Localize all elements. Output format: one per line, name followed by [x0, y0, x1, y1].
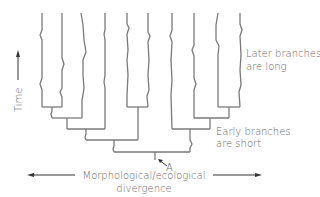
time-arrow-head-icon: [16, 50, 20, 57]
divergence-arrow-left-icon: [27, 173, 34, 177]
later-branches-line2: are long: [246, 61, 287, 72]
divergence-label-line1: Morphological/ecological: [83, 170, 206, 181]
branch-tip-8: [192, 13, 196, 118]
branch-tip-10: [239, 13, 242, 107]
branch-tip-2: [60, 13, 64, 107]
early-branches-line2: are short: [216, 138, 261, 149]
stem-1234: [85, 129, 86, 140]
branch-tip-9: [216, 13, 219, 107]
branch-tip-3: [81, 13, 86, 118]
later-branches-line1: Later branches: [246, 48, 320, 59]
branch-tip-1: [40, 13, 42, 107]
divergence-arrow-right-icon: [255, 173, 262, 177]
branch-tip-6: [147, 13, 150, 107]
branch-tip-5: [127, 13, 129, 107]
early-branches-line1: Early branches: [216, 126, 291, 137]
branch-tip-7: [170, 13, 172, 129]
time-axis: Time: [13, 50, 24, 112]
stem-left-clade: [113, 140, 114, 152]
divergence-axis: Morphological/ecological divergence: [27, 170, 262, 194]
branch-tip-4: [104, 13, 105, 129]
time-axis-label: Time: [13, 88, 24, 112]
divergence-label-line2: divergence: [116, 183, 171, 194]
stem-1-2: [51, 107, 52, 118]
stem-right-clade: [190, 129, 192, 152]
phylogeny-diagram: A Time Morphological/ecological divergen…: [0, 0, 320, 197]
